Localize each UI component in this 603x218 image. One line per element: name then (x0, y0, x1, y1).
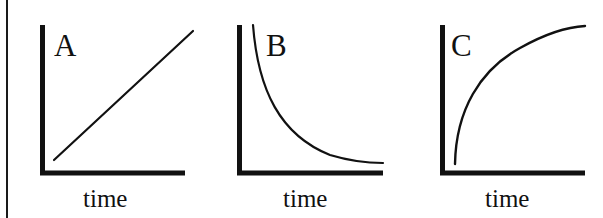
panel-c-x-axis-label: time (485, 185, 529, 212)
panel-b-x-axis-label: time (283, 185, 327, 212)
panel-a: A time (40, 25, 193, 212)
panel-a-x-axis-label: time (83, 185, 127, 212)
panel-c-curve-saturation (455, 26, 585, 164)
panel-b: B time (237, 25, 383, 212)
graphs-figure: A time B time C time (0, 0, 603, 218)
panel-a-label: A (54, 28, 77, 63)
panel-b-label: B (266, 28, 287, 63)
panel-c-label: C (451, 28, 472, 63)
panel-c: C time (440, 25, 585, 212)
